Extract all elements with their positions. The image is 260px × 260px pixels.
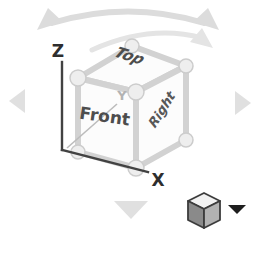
cube-icon[interactable] [188,193,220,228]
rotate-down-triangle-icon[interactable] [114,201,148,219]
roll-rotate-arc-icon[interactable] [92,28,213,50]
viewcube-widget: Y Top Front Right Z X [0,0,260,260]
rotate-left-triangle-icon[interactable] [9,89,25,113]
dropdown-arrow-icon[interactable] [228,205,246,214]
rotate-right-triangle-icon[interactable] [235,91,251,115]
axis-x-label: X [151,170,164,190]
axis-z-label: Z [52,41,64,61]
orbit-rotate-arc-icon[interactable] [37,8,219,30]
axis-y-label: Y [116,88,127,103]
